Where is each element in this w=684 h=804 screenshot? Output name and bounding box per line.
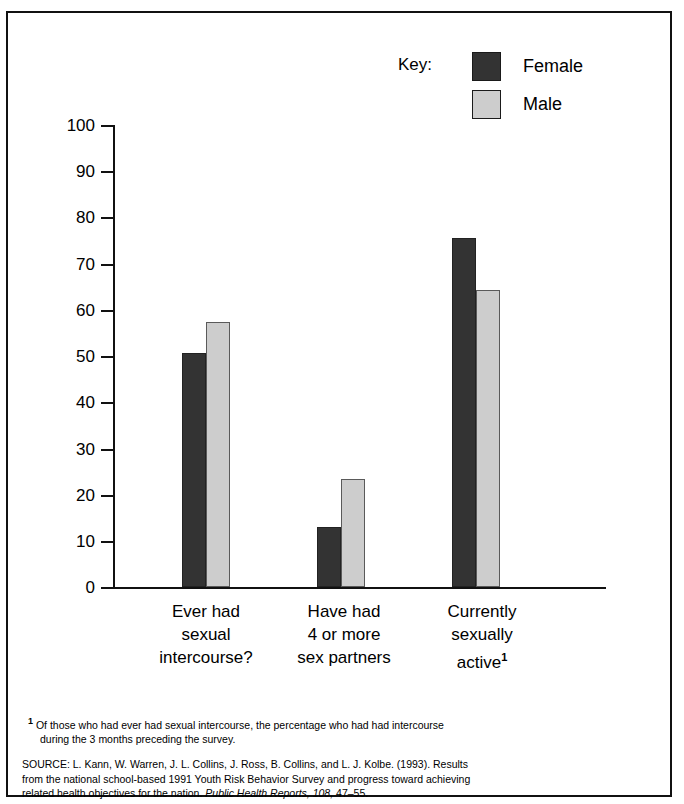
- y-tick-label-80: 80: [49, 209, 95, 226]
- y-tick-mark: [101, 264, 113, 266]
- y-tick-label-10: 10: [49, 533, 95, 550]
- y-tick-label-100: 100: [49, 117, 95, 134]
- x-category-line3: intercourse?: [159, 648, 253, 667]
- x-category-line1: Have had: [308, 602, 381, 621]
- y-tick-label-70: 70: [49, 256, 95, 273]
- y-tick-mark: [101, 402, 113, 404]
- source-pages: 47–55.: [333, 787, 368, 799]
- y-tick-label-0: 0: [49, 579, 95, 596]
- x-category-line3: active: [457, 653, 501, 672]
- x-category-line1: Currently: [448, 602, 517, 621]
- bar-male-ever-had-sexual-intercourse[interactable]: [206, 322, 230, 587]
- x-category-line3: sex partners: [297, 648, 391, 667]
- source-line2: from the national school-based 1991 Yout…: [22, 773, 470, 785]
- bar-male-4-or-more-sex-partners[interactable]: [341, 479, 365, 587]
- footnote: 1 Of those who had ever had sexual inter…: [28, 714, 628, 746]
- y-tick-mark: [101, 541, 113, 543]
- x-axis-line: [113, 587, 606, 589]
- y-tick-mark: [101, 217, 113, 219]
- y-tick-label-40: 40: [49, 394, 95, 411]
- y-axis-line: [113, 125, 115, 589]
- source-line3-prefix: related health objectives for the nation…: [22, 787, 205, 799]
- x-category-line2: sexually: [451, 625, 512, 644]
- footnote-marker: 1: [28, 716, 33, 726]
- bar-female-4-or-more-sex-partners[interactable]: [317, 527, 341, 587]
- bar-male-currently-sexually-active[interactable]: [476, 290, 500, 587]
- bar-chart-plot: 100 90 80 70 60 50 40 30 20 10 0 Ever ha…: [0, 0, 684, 804]
- y-tick-mark: [101, 310, 113, 312]
- y-tick-label-90: 90: [49, 163, 95, 180]
- y-tick-label-50: 50: [49, 348, 95, 365]
- y-tick-mark: [101, 449, 113, 451]
- x-category-line2: sexual: [181, 625, 230, 644]
- x-category-line2: 4 or more: [308, 625, 381, 644]
- source-citation: SOURCE: L. Kann, W. Warren, J. L. Collin…: [22, 757, 642, 801]
- x-category-label-2: Currently sexually active1: [397, 600, 567, 674]
- y-tick-mark: [101, 171, 113, 173]
- x-category-footnote-mark: 1: [501, 651, 507, 663]
- y-tick-label-60: 60: [49, 302, 95, 319]
- y-tick-mark: [101, 125, 113, 127]
- y-tick-mark: [101, 495, 113, 497]
- y-tick-label-20: 20: [49, 487, 95, 504]
- footnote-line2: during the 3 months preceding the survey…: [28, 732, 628, 746]
- footnote-line1: Of those who had ever had sexual interco…: [36, 719, 444, 731]
- bar-female-currently-sexually-active[interactable]: [452, 238, 476, 587]
- source-journal: Public Health Reports, 108,: [205, 787, 333, 799]
- y-tick-mark: [101, 587, 113, 589]
- source-line1: SOURCE: L. Kann, W. Warren, J. L. Collin…: [22, 758, 468, 770]
- bar-female-ever-had-sexual-intercourse[interactable]: [182, 353, 206, 587]
- x-category-line1: Ever had: [172, 602, 240, 621]
- y-tick-mark: [101, 356, 113, 358]
- y-tick-label-30: 30: [49, 441, 95, 458]
